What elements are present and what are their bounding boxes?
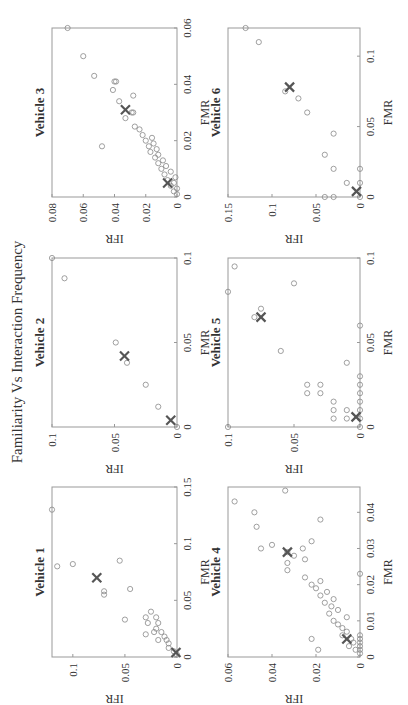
ifr-tick-label: 0.1 <box>46 433 58 447</box>
ifr-tick-label: 0.05 <box>310 203 322 223</box>
fmr-tick-label: 0.05 <box>181 590 193 610</box>
data-point <box>156 620 161 625</box>
ifr-tick-label: 0.1 <box>222 433 234 447</box>
ifr-tick-label: 0 <box>354 433 366 439</box>
ifr-axis-label: IFR <box>285 232 304 246</box>
ifr-tick-label: 0.1 <box>266 203 278 217</box>
data-point <box>92 73 97 78</box>
data-point <box>171 180 176 185</box>
ifr-axis-label: IFR <box>105 692 124 705</box>
ifr-tick-label: 0 <box>171 433 183 439</box>
ifr-tick-label: 0.15 <box>222 203 234 223</box>
fmr-tick-label: 0 <box>181 194 193 200</box>
ifr-axis-label: IFR <box>105 462 124 476</box>
ifr-tick-label: 0 <box>354 663 366 669</box>
data-point <box>331 416 336 421</box>
data-point <box>344 629 349 634</box>
data-point <box>258 306 263 311</box>
fmr-tick-label: 0 <box>181 424 193 430</box>
panel-title: Vehicle 5 <box>208 317 223 367</box>
data-point <box>55 564 60 569</box>
data-point <box>309 582 314 587</box>
data-point <box>146 144 151 149</box>
plot-frame <box>228 487 360 657</box>
data-point <box>331 131 336 136</box>
ifr-axis-label: IFR <box>105 232 124 246</box>
data-point <box>327 611 332 616</box>
data-point <box>256 39 261 44</box>
ifr-tick-label: 0 <box>171 203 183 209</box>
fmr-tick-label: 0.04 <box>181 74 193 94</box>
data-point <box>252 510 257 515</box>
data-point <box>143 382 148 387</box>
data-point <box>313 586 318 591</box>
data-point <box>335 607 340 612</box>
data-point <box>300 546 305 551</box>
data-point <box>331 597 336 602</box>
data-point <box>154 615 159 620</box>
data-point <box>331 408 336 413</box>
ifr-tick-label: 0.08 <box>46 203 58 223</box>
data-point <box>156 637 161 642</box>
fmr-tick-label: 0.05 <box>181 332 193 352</box>
data-point <box>153 155 158 160</box>
fmr-tick-label: 0.02 <box>364 575 376 594</box>
data-point <box>344 416 349 421</box>
fmr-tick-label: 0.1 <box>364 49 376 63</box>
centroid-cross-icon <box>342 634 351 643</box>
data-point <box>156 161 161 166</box>
data-point <box>318 578 323 583</box>
figure-title: Familiarity Vs Interaction Frequency <box>9 240 25 463</box>
data-point <box>318 593 323 598</box>
data-point <box>344 615 349 620</box>
data-point <box>309 539 314 544</box>
panel-vehicle-3: Vehicle 300.020.040.06FMR00.020.040.060.… <box>32 18 212 246</box>
data-point <box>81 54 86 59</box>
data-point <box>331 166 336 171</box>
data-point <box>252 315 257 320</box>
fmr-tick-label: 0.02 <box>181 131 193 150</box>
data-point <box>163 163 168 168</box>
centroid-cross-icon <box>166 416 175 425</box>
fmr-axis-label: FMR <box>381 330 395 355</box>
fmr-axis-label: FMR <box>381 100 395 125</box>
fmr-tick-label: 0.05 <box>364 332 376 352</box>
data-point <box>291 281 296 286</box>
data-point <box>305 382 310 387</box>
fmr-tick-label: 0.03 <box>364 538 376 558</box>
data-point <box>316 647 321 652</box>
figure: Familiarity Vs Interaction Frequency Veh… <box>0 0 408 705</box>
panel-title: Vehicle 6 <box>208 87 223 137</box>
panel-title: Vehicle 2 <box>32 318 47 368</box>
fmr-tick-label: 0 <box>364 194 376 200</box>
plot-frame <box>52 258 177 427</box>
ifr-tick-label: 0.04 <box>266 663 278 683</box>
centroid-cross-icon <box>257 313 266 322</box>
data-point <box>309 636 314 641</box>
data-point <box>117 99 122 104</box>
ifr-tick-label: 0.05 <box>119 663 131 683</box>
data-point <box>318 382 323 387</box>
data-point <box>335 622 340 627</box>
data-point <box>302 557 307 562</box>
data-point <box>159 629 164 634</box>
fmr-tick-label: 0 <box>181 654 193 660</box>
data-point <box>318 391 323 396</box>
data-point <box>322 600 327 605</box>
data-point <box>62 276 67 281</box>
ifr-axis-label: IFR <box>285 462 304 476</box>
data-point <box>331 618 336 623</box>
data-point <box>285 560 290 565</box>
data-point <box>124 360 129 365</box>
ifr-axis-label: IFR <box>285 692 304 705</box>
centroid-cross-icon <box>283 548 292 557</box>
data-point <box>232 499 237 504</box>
ifr-tick-label: 0.06 <box>222 663 234 683</box>
data-point <box>70 561 75 566</box>
fmr-tick-label: 0.06 <box>181 18 193 38</box>
plot-frame <box>52 28 177 197</box>
data-point <box>154 147 159 152</box>
data-point <box>162 172 167 177</box>
ifr-tick-label: 0 <box>171 663 183 669</box>
centroid-cross-icon <box>121 105 130 114</box>
